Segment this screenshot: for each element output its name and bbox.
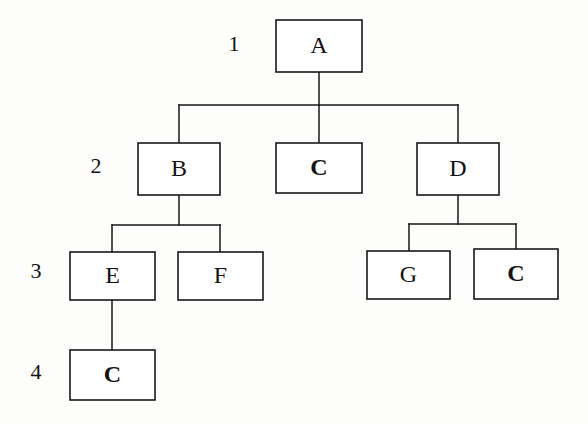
- tree-node[interactable]: F: [178, 252, 263, 300]
- tree-node-label: B: [171, 155, 187, 181]
- level-label-1: 1: [229, 31, 240, 56]
- tree-node-label: C: [104, 361, 121, 387]
- tree-diagram: ABCDEFGCC 1234: [0, 0, 588, 424]
- tree-node-label: C: [507, 260, 524, 286]
- tree-diagram-canvas: ABCDEFGCC 1234: [0, 0, 588, 424]
- edges-layer: [112, 72, 516, 350]
- level-labels-layer: 1234: [31, 31, 240, 384]
- tree-node-label: E: [105, 262, 120, 288]
- level-label-2: 2: [91, 153, 102, 178]
- tree-node[interactable]: E: [70, 252, 155, 300]
- tree-node-label: C: [310, 154, 327, 180]
- level-label-4: 4: [31, 359, 42, 384]
- level-label-3: 3: [31, 258, 42, 283]
- tree-node-label: A: [310, 32, 328, 58]
- tree-node-label: D: [449, 155, 466, 181]
- tree-node[interactable]: B: [138, 143, 220, 195]
- tree-node[interactable]: C: [70, 350, 155, 400]
- tree-node[interactable]: C: [276, 143, 362, 193]
- tree-node-label: G: [400, 261, 417, 287]
- tree-node-label: F: [214, 262, 227, 288]
- tree-node[interactable]: G: [367, 251, 450, 299]
- nodes-layer: ABCDEFGCC: [70, 20, 558, 400]
- tree-node[interactable]: D: [417, 143, 499, 195]
- tree-node[interactable]: A: [276, 20, 362, 72]
- tree-node[interactable]: C: [474, 249, 558, 299]
